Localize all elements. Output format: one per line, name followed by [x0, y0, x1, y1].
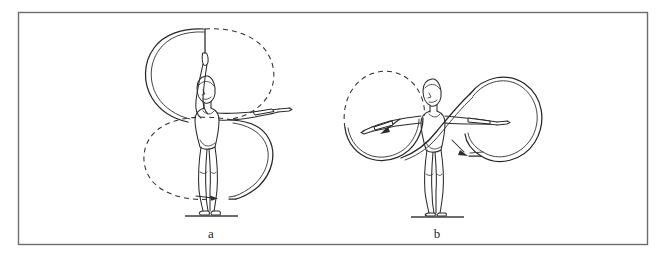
panel-b-label: b	[434, 226, 441, 241]
panel-a-label: a	[208, 226, 214, 241]
ribbon-diagram-svg: a	[0, 0, 665, 258]
plate-border	[19, 13, 648, 245]
figure-plate: a	[0, 0, 665, 258]
